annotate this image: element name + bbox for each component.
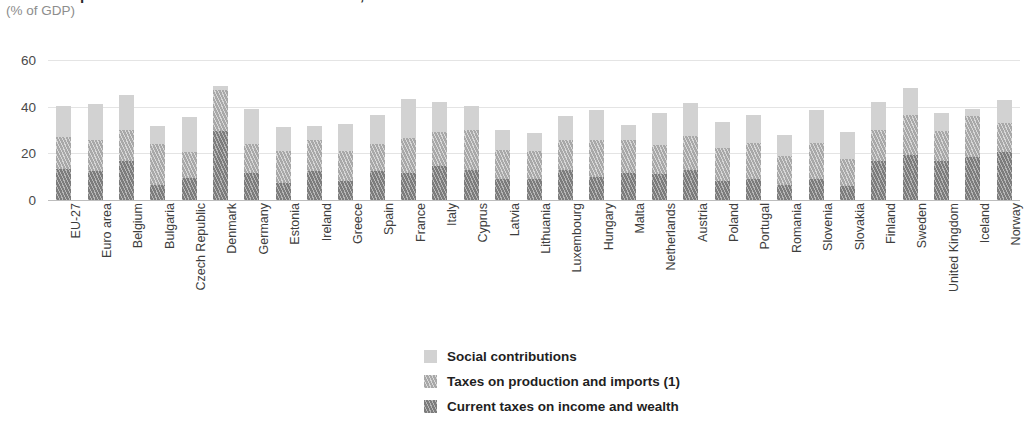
bar-group[interactable] xyxy=(56,106,71,200)
x-tick-label: Bulgaria xyxy=(163,203,178,318)
x-tick-label: Belgium xyxy=(131,203,146,318)
bar-group[interactable] xyxy=(119,95,134,200)
bar-segment-social xyxy=(809,110,824,143)
bar-segment-production xyxy=(213,90,228,131)
bar-group[interactable] xyxy=(934,113,949,200)
legend-item-social[interactable]: Social contributions xyxy=(424,344,844,369)
bar-group[interactable] xyxy=(527,133,542,200)
bar-group[interactable] xyxy=(621,125,636,200)
x-tick-label: Latvia xyxy=(508,203,523,318)
bar-segment-income xyxy=(903,155,918,200)
bar-group[interactable] xyxy=(182,117,197,200)
bar-segment-production xyxy=(997,123,1012,153)
bar-group[interactable] xyxy=(809,110,824,200)
bar-segment-social xyxy=(589,110,604,140)
bar-segment-production xyxy=(777,156,792,185)
bar-segment-income xyxy=(307,171,322,200)
bar-group[interactable] xyxy=(307,126,322,200)
x-tick-label: Ireland xyxy=(320,203,335,318)
bar-segment-production xyxy=(621,140,636,173)
bar-group[interactable] xyxy=(244,109,259,200)
bar-segment-income xyxy=(621,173,636,200)
bar-segment-income xyxy=(809,179,824,200)
x-tick-label: Netherlands xyxy=(664,203,679,318)
bar-group[interactable] xyxy=(997,100,1012,200)
x-tick-label: France xyxy=(414,203,429,318)
bar-group[interactable] xyxy=(589,110,604,200)
bar-group[interactable] xyxy=(777,135,792,200)
x-tick-label: Poland xyxy=(727,203,742,318)
bar-group[interactable] xyxy=(965,109,980,200)
bar-segment-income xyxy=(401,173,416,200)
bar-group[interactable] xyxy=(871,102,886,200)
bar-segment-social xyxy=(307,126,322,139)
hatched-dark-gray-swatch xyxy=(424,400,437,413)
bar-segment-production xyxy=(715,148,730,181)
bar-segment-income xyxy=(715,181,730,200)
bar-segment-social xyxy=(746,115,761,143)
bar-segment-production xyxy=(432,132,447,166)
bar-segment-social xyxy=(871,102,886,130)
bar-segment-income xyxy=(527,179,542,200)
y-tick-label-20: 20 xyxy=(0,146,36,161)
bar-segment-social xyxy=(88,104,103,140)
bar-group[interactable] xyxy=(370,115,385,200)
bar-segment-production xyxy=(965,116,980,157)
bar-segment-production xyxy=(150,144,165,185)
x-tick-label: Iceland xyxy=(978,203,993,318)
bar-segment-social xyxy=(150,126,165,145)
bar-segment-social xyxy=(903,88,918,115)
bar-segment-social xyxy=(683,103,698,136)
bar-segment-production xyxy=(527,151,542,179)
bar-segment-income xyxy=(777,185,792,200)
bar-segment-income xyxy=(119,161,134,200)
bar-segment-social xyxy=(464,106,479,130)
bar-group[interactable] xyxy=(840,132,855,200)
chart-header: Total receipts from taxes and social con… xyxy=(0,0,1026,20)
x-tick-label: Greece xyxy=(351,203,366,318)
bar-segment-production xyxy=(934,131,949,161)
bar-segment-income xyxy=(683,170,698,200)
bar-segment-production xyxy=(370,144,385,171)
bar-segment-social xyxy=(934,113,949,132)
y-tick-label-60: 60 xyxy=(0,53,36,68)
bar-group[interactable] xyxy=(88,104,103,200)
bar-segment-production xyxy=(56,137,71,169)
bar-segment-income xyxy=(558,170,573,200)
bar-group[interactable] xyxy=(746,115,761,200)
bar-group[interactable] xyxy=(903,88,918,200)
bar-group[interactable] xyxy=(213,86,228,200)
x-axis: EU-27Euro areaBelgiumBulgariaCzech Repub… xyxy=(48,203,1020,318)
bar-group[interactable] xyxy=(683,103,698,200)
bar-group[interactable] xyxy=(652,113,667,200)
bar-segment-income xyxy=(965,157,980,200)
x-tick-label: Norway xyxy=(1009,203,1024,318)
bar-segment-production xyxy=(558,140,573,170)
bar-segment-production xyxy=(88,140,103,171)
x-tick-label: Slovakia xyxy=(853,203,868,318)
bar-segment-income xyxy=(589,177,604,200)
bar-group[interactable] xyxy=(464,106,479,200)
x-tick-label: Germany xyxy=(257,203,272,318)
bar-segment-income xyxy=(934,161,949,200)
plot-area xyxy=(48,60,1020,200)
bar-segment-social xyxy=(338,124,353,151)
bar-segment-production xyxy=(903,115,918,156)
bar-group[interactable] xyxy=(558,116,573,200)
bar-segment-income xyxy=(244,173,259,200)
x-tick-label: Portugal xyxy=(758,203,773,318)
legend-item-income[interactable]: Current taxes on income and wealth xyxy=(424,394,844,419)
bar-group[interactable] xyxy=(150,126,165,200)
bar-segment-social xyxy=(182,117,197,152)
bar-group[interactable] xyxy=(495,130,510,200)
bar-group[interactable] xyxy=(715,122,730,200)
bar-group[interactable] xyxy=(432,102,447,200)
legend-item-production[interactable]: Taxes on production and imports (1) xyxy=(424,369,844,394)
bar-segment-social xyxy=(997,100,1012,122)
bar-group[interactable] xyxy=(276,127,291,200)
bar-segment-social xyxy=(621,125,636,140)
bar-group[interactable] xyxy=(401,99,416,200)
bar-segment-income xyxy=(871,161,886,200)
bar-group[interactable] xyxy=(338,124,353,200)
x-tick-label: Finland xyxy=(884,203,899,318)
